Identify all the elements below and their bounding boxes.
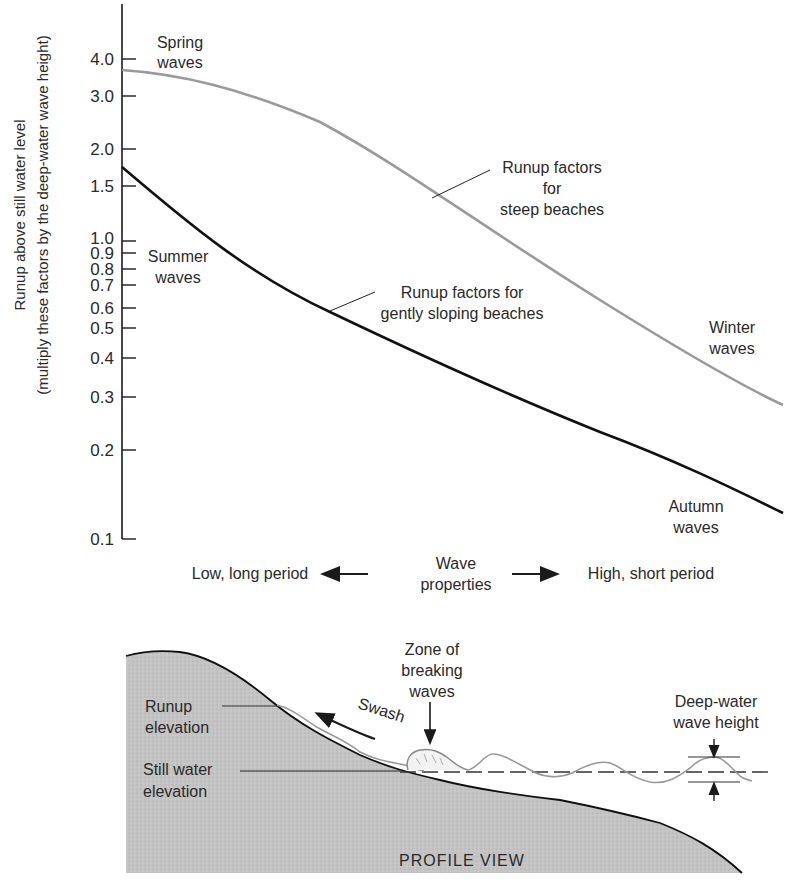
wave-train [468,754,752,783]
x-right-label: High, short period [588,565,714,582]
summer-waves-label: Summer [148,248,209,265]
autumn-waves-label: Autumn [668,498,723,515]
y-ticks [122,59,136,539]
breaking-zone-label: Zone of [405,641,460,658]
deep-water-label: Deep-water [675,693,758,710]
breaking-wave [407,749,468,770]
y-axis-title: Runup above still water level (multiply … [11,35,51,394]
gentle-annotation: gently sloping beaches [381,305,544,322]
summer-waves-label: waves [154,269,200,286]
gentle-annotation: Runup factors for [401,284,524,301]
x-center-label: Wave [436,555,476,572]
autumn-waves-label: waves [672,519,718,536]
gentle-beaches-curve [122,167,783,513]
steep-annotation: Runup factors [502,159,602,176]
breaking-zone-label: waves [408,683,454,700]
y-tick-label: 0.3 [90,388,114,407]
steep-annotation: for [543,180,562,197]
profile-view-title: PROFILE VIEW [399,852,525,869]
still-water-label: elevation [143,783,207,800]
y-tick-label: 0.1 [90,530,114,549]
y-axis-title-line2: (multiply these factors by the deep-wate… [34,35,51,394]
steep-annotation: steep beaches [500,201,604,218]
y-tick-label: 0.6 [90,299,114,318]
deep-water-label: wave height [672,714,759,731]
breaking-zone-label: breaking [401,662,462,679]
y-tick-label: 4.0 [90,50,114,69]
swash-arrow-icon [318,714,375,739]
x-axis-labels: Low, long period Wave properties High, s… [192,555,714,593]
y-tick-label: 0.5 [90,319,114,338]
y-tick-label: 3.0 [90,87,114,106]
runup-elevation-label: Runup [145,698,192,715]
profile-diagram: Runup elevation Still water elevation Sw… [126,641,772,873]
y-tick-label: 2.0 [90,140,114,159]
spring-waves-label: Spring [157,34,203,51]
figure: 4.0 3.0 2.0 1.5 1.0 0.9 0.8 0.7 0.6 0.5 … [0,0,800,896]
x-left-label: Low, long period [192,565,309,582]
y-axis-title-line1: Runup above still water level [11,120,28,311]
winter-waves-label: waves [708,340,754,357]
y-tick-label: 0.4 [90,349,114,368]
y-tick-labels: 4.0 3.0 2.0 1.5 1.0 0.9 0.8 0.7 0.6 0.5 … [90,50,114,549]
runup-elevation-label: elevation [145,719,209,736]
winter-waves-label: Winter [709,319,756,336]
y-tick-label: 1.5 [90,177,114,196]
gentle-leader-line [330,292,375,311]
swash-label: Swash [356,695,407,726]
x-center-label: properties [420,576,491,593]
y-tick-label: 0.7 [90,276,114,295]
chart: 4.0 3.0 2.0 1.5 1.0 0.9 0.8 0.7 0.6 0.5 … [11,4,783,593]
still-water-label: Still water [143,761,213,778]
steep-beaches-curve [122,70,783,405]
y-tick-label: 0.2 [90,441,114,460]
steep-leader-line [432,170,490,198]
spring-waves-label: waves [156,54,202,71]
